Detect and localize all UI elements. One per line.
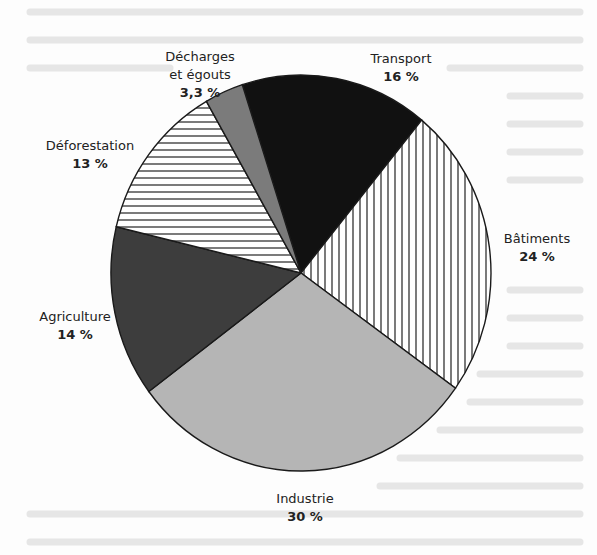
label-decharges: Décharges et égouts 3,3 % [150,48,250,102]
label-deforestation: Déforestation 13 % [35,137,145,173]
pie-chart [0,0,597,555]
label-batiments: Bâtiments 24 % [492,230,582,266]
label-industrie: Industrie 30 % [260,490,350,526]
label-agriculture: Agriculture 14 % [30,308,120,344]
label-transport: Transport 16 % [351,50,451,86]
